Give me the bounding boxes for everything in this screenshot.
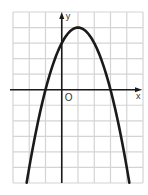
parabola-graph: y x O: [0, 0, 148, 195]
origin-label: O: [65, 92, 73, 103]
x-axis-label: x: [136, 91, 141, 101]
grid: [13, 12, 143, 183]
y-axis-arrow-icon: [59, 12, 64, 19]
y-axis-label: y: [66, 11, 71, 21]
